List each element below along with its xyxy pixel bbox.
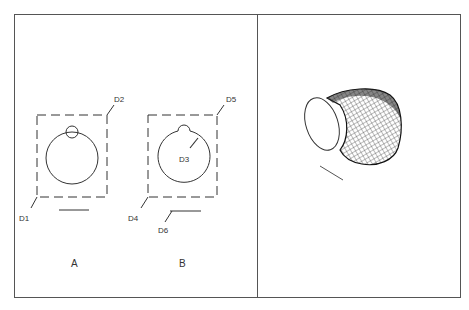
leader-d4 (141, 197, 148, 208)
mesh-elbow-3d (298, 89, 401, 180)
leader-d3 (190, 138, 198, 148)
callout-d6: D6 (158, 226, 169, 235)
callout-d5: D5 (226, 95, 237, 104)
callout-d3: D3 (179, 155, 190, 164)
drawing-canvas: D2 D1 A D3 D6 D5 D4 B (0, 0, 469, 310)
view-label-a: A (71, 258, 78, 269)
leader-d5 (217, 105, 224, 115)
leader-d1 (31, 197, 37, 208)
main-circle-a (46, 132, 98, 184)
keyhole-profile-b (158, 125, 210, 182)
callout-d2: D2 (114, 95, 125, 104)
view-a: D2 D1 A (19, 95, 125, 269)
view-label-b: B (179, 258, 186, 269)
callout-d1: D1 (19, 214, 30, 223)
callout-d4: D4 (128, 214, 139, 223)
scale-line-3d (320, 166, 343, 180)
leader-d6 (165, 211, 172, 222)
view-b: D3 D6 D5 D4 B (128, 95, 237, 269)
dashed-boundary-a (37, 115, 107, 197)
leader-d2 (107, 105, 114, 115)
